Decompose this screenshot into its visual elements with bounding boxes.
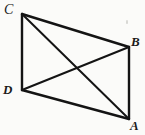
figure-canvas [0, 0, 145, 135]
vertex-label-d: D [3, 83, 12, 96]
vertex-label-a: A [130, 119, 139, 132]
vertex-label-b: B [131, 35, 140, 48]
diagonal-DB [22, 47, 129, 90]
geometry-figure: C B A D [0, 0, 145, 135]
vertex-label-c: C [4, 3, 13, 16]
scan-speck-icon [126, 20, 128, 24]
